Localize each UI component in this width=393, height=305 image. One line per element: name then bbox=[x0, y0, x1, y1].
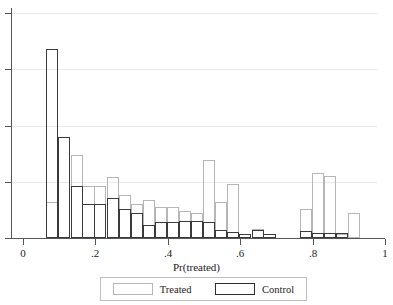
histogram-bar-treated bbox=[324, 176, 336, 238]
histogram-bar-control bbox=[215, 230, 227, 238]
histogram-bar-control bbox=[179, 221, 191, 238]
y-axis-tick bbox=[5, 238, 12, 239]
y-axis-tick bbox=[5, 69, 12, 70]
histogram-bar-control bbox=[252, 230, 264, 238]
y-axis-tick bbox=[5, 126, 12, 127]
histogram-bar-control bbox=[155, 222, 167, 238]
histogram-bar-treated bbox=[227, 184, 239, 238]
x-axis-tick bbox=[313, 239, 314, 245]
x-axis-tick-label: 1 bbox=[370, 247, 393, 259]
gridline bbox=[12, 126, 377, 127]
x-axis-tick-label: .2 bbox=[80, 247, 110, 259]
histogram-bar-control bbox=[300, 231, 312, 238]
x-axis-tick-label: .8 bbox=[298, 247, 328, 259]
histogram-bar-control bbox=[119, 209, 131, 238]
histogram-bar-control bbox=[191, 221, 203, 238]
control-swatch-icon bbox=[215, 283, 255, 295]
y-axis-line bbox=[11, 8, 12, 239]
x-axis-tick bbox=[240, 239, 241, 245]
histogram-bar-control bbox=[239, 234, 251, 239]
x-axis-tick bbox=[385, 239, 386, 245]
histogram-bar-treated bbox=[312, 173, 324, 238]
treated-swatch-icon bbox=[113, 283, 153, 295]
histogram-bar-control bbox=[227, 232, 239, 238]
histogram-bar-control bbox=[167, 222, 179, 238]
x-axis-tick bbox=[168, 239, 169, 245]
legend-label-control: Control bbox=[262, 284, 294, 295]
histogram-bar-control bbox=[203, 222, 215, 238]
chart-legend: Treated Control bbox=[100, 277, 307, 301]
histogram-bar-treated bbox=[348, 213, 360, 238]
y-axis-tick bbox=[5, 182, 12, 183]
gridline bbox=[12, 69, 377, 70]
histogram-bar-control bbox=[324, 233, 336, 238]
x-axis-tick bbox=[95, 239, 96, 245]
histogram-bar-control bbox=[131, 213, 143, 238]
legend-entry-control: Control bbox=[215, 283, 294, 295]
histogram-bar-control bbox=[312, 233, 324, 238]
histogram-bar-control bbox=[263, 234, 275, 239]
gridline bbox=[12, 13, 377, 14]
x-axis-title: Pr(treated) bbox=[0, 261, 393, 273]
histogram-bar-control bbox=[46, 49, 58, 238]
histogram-figure: 0.2.4.6.81 Pr(treated) Treated Control bbox=[0, 0, 393, 305]
x-axis-tick-label: .4 bbox=[153, 247, 183, 259]
plot-area: 0.2.4.6.81 bbox=[0, 0, 393, 250]
histogram-bar-control bbox=[82, 204, 94, 238]
histogram-bar-control bbox=[94, 204, 106, 238]
legend-label-treated: Treated bbox=[160, 284, 192, 295]
y-axis-tick bbox=[5, 13, 12, 14]
x-axis-line bbox=[11, 238, 385, 239]
histogram-bar-control bbox=[143, 225, 155, 239]
histogram-bar-control bbox=[58, 137, 70, 238]
x-axis-tick-label: .6 bbox=[225, 247, 255, 259]
x-axis-tick-label: 0 bbox=[8, 247, 38, 259]
histogram-bar-control bbox=[107, 198, 119, 239]
histogram-bar-control bbox=[336, 233, 348, 238]
histogram-bar-control bbox=[71, 186, 83, 238]
legend-entry-treated: Treated bbox=[113, 283, 192, 295]
x-axis-tick bbox=[23, 239, 24, 245]
